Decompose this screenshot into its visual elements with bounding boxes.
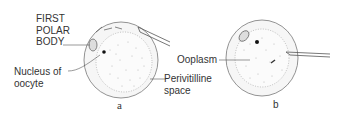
label-ooplasm: Ooplasm — [177, 54, 217, 66]
label-first-polar-body: FIRST POLAR BODY — [36, 13, 70, 48]
label-line: BODY — [36, 36, 70, 48]
label-line: POLAR — [36, 25, 70, 37]
label-perivitelline-space: Perivitilline space — [164, 73, 212, 96]
nucleus-a — [102, 50, 106, 54]
nucleus-b — [255, 40, 259, 44]
caption-b: b — [273, 99, 279, 110]
label-line: oocyte — [14, 78, 61, 90]
label-line: space — [164, 85, 212, 97]
label-nucleus-of-oocyte: Nucleus of oocyte — [14, 66, 61, 89]
oocyte-b — [226, 20, 330, 96]
oocyte-a — [84, 22, 170, 98]
label-line: Perivitilline — [164, 73, 212, 85]
polar-body-a — [89, 39, 97, 51]
label-line: Nucleus of — [14, 66, 61, 78]
caption-a: a — [117, 99, 122, 111]
label-line: FIRST — [36, 13, 70, 25]
ooplasm-a — [96, 32, 152, 92]
